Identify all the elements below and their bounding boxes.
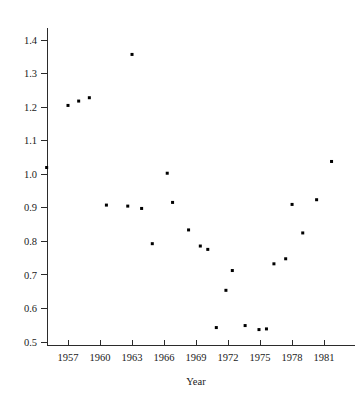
plot-area: 0.50.60.70.80.91.01.11.21.31.4 195719601… [0,0,362,403]
x-tick-label-1966: 1966 [154,352,175,363]
data-point [215,326,218,329]
y-axis: 0.50.60.70.80.91.01.11.21.31.4 [24,28,48,348]
data-point [140,207,143,210]
data-point [151,242,154,245]
data-point [244,324,247,327]
y-tick-label-0.5: 0.5 [24,337,37,348]
x-tick-label-1957: 1957 [58,352,79,363]
data-point [67,104,70,107]
data-point [330,160,333,163]
data-point [88,96,91,99]
data-point [187,228,190,231]
data-point [272,262,275,265]
data-point [265,327,268,330]
data-point [131,53,134,56]
data-point [291,203,294,206]
data-point [126,205,129,208]
y-tick-label-0.9: 0.9 [24,202,37,213]
y-tick-label-1.0: 1.0 [24,169,37,180]
y-tick-label-0.6: 0.6 [24,303,37,314]
y-tick-label-1.3: 1.3 [24,68,37,79]
data-point [284,257,287,260]
x-tick-label-1960: 1960 [90,352,111,363]
data-point [301,231,304,234]
data-point [257,328,260,331]
data-point [171,201,174,204]
data-point [315,198,318,201]
data-point [166,172,169,175]
data-point [77,100,80,103]
scatter-chart-figure: 0.50.60.70.80.91.01.11.21.31.4 195719601… [0,0,362,403]
y-tick-label-0.8: 0.8 [24,236,37,247]
data-point [224,289,227,292]
data-point [199,245,202,248]
y-tick-label-1.2: 1.2 [24,102,37,113]
x-tick-label-1981: 1981 [314,352,335,363]
data-point [105,204,108,207]
x-tick-label-1972: 1972 [218,352,239,363]
data-point [231,269,234,272]
x-tick-label-1963: 1963 [122,352,143,363]
y-tick-label-1.4: 1.4 [24,35,38,46]
x-tick-label-1969: 1969 [186,352,207,363]
x-axis-title: Year [186,376,206,387]
data-point [45,166,48,169]
data-point [206,248,209,251]
x-tick-label-1978: 1978 [282,352,303,363]
x-axis: 195719601963196619691972197519781981 [47,340,355,363]
y-tick-label-0.7: 0.7 [24,270,37,281]
y-tick-label-1.1: 1.1 [24,135,37,146]
data-points-group [45,53,333,331]
x-tick-label-1975: 1975 [250,352,271,363]
